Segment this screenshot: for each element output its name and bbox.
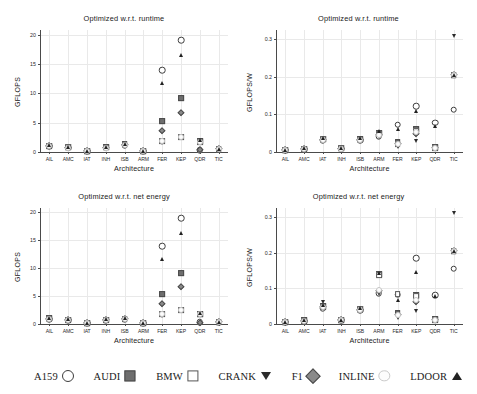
legend-item-marker bbox=[451, 370, 463, 382]
legend-item[interactable]: A159 bbox=[34, 370, 74, 382]
x-axis-tick-label: QDR bbox=[429, 328, 440, 334]
gridline-vertical bbox=[219, 30, 220, 152]
y-axis-tick-label: 20 bbox=[30, 209, 36, 215]
gridline-vertical bbox=[304, 30, 305, 152]
x-axis-tick-label: ISB bbox=[121, 156, 129, 162]
gridline-vertical bbox=[143, 208, 144, 324]
x-axis-tick-label: QDR bbox=[194, 328, 205, 334]
x-axis-tick-label: ARM bbox=[138, 328, 149, 334]
x-axis-tick-label: TIC bbox=[215, 156, 223, 162]
x-axis-tick-label: AIL bbox=[282, 156, 289, 162]
x-axis-tick-label: AIL bbox=[282, 328, 289, 334]
data-point bbox=[395, 141, 401, 147]
data-point bbox=[339, 146, 343, 150]
x-axis-tick-label: INH bbox=[102, 156, 110, 162]
data-point bbox=[432, 145, 438, 151]
panel-title: Optimized w.r.t. net energy bbox=[8, 192, 240, 201]
x-axis-tick-label: KEP bbox=[411, 156, 421, 162]
panel-title: Optimized w.r.t. net energy bbox=[240, 192, 477, 201]
x-axis-tick-label: IAT bbox=[319, 156, 326, 162]
legend-item[interactable]: INLINE bbox=[339, 370, 391, 382]
data-point bbox=[66, 145, 70, 149]
data-point bbox=[47, 316, 51, 320]
x-axis-tick-label: ISB bbox=[356, 328, 364, 334]
legend-item[interactable]: F1 bbox=[292, 370, 319, 382]
y-axis-tick-label: 0 bbox=[269, 149, 272, 155]
data-point bbox=[217, 147, 221, 151]
data-point bbox=[159, 311, 165, 317]
y-axis-line bbox=[276, 208, 277, 324]
gridline-vertical bbox=[435, 208, 436, 324]
gridline-vertical bbox=[454, 30, 455, 152]
x-axis-tick-label: INH bbox=[337, 328, 345, 334]
data-point bbox=[433, 124, 437, 128]
data-point bbox=[432, 317, 438, 323]
gridline-vertical bbox=[87, 208, 88, 324]
data-point bbox=[377, 129, 381, 133]
data-point bbox=[377, 271, 381, 275]
data-point bbox=[123, 316, 127, 320]
legend-item-marker bbox=[260, 370, 272, 382]
data-point bbox=[177, 283, 185, 291]
legend-item-marker bbox=[378, 370, 390, 382]
data-point bbox=[433, 294, 437, 298]
data-point bbox=[178, 307, 184, 313]
data-point bbox=[178, 95, 184, 101]
data-point bbox=[339, 318, 343, 322]
data-point bbox=[47, 143, 51, 147]
data-point bbox=[178, 215, 185, 222]
x-axis-tick-label: INH bbox=[102, 328, 110, 334]
y-axis-label: GFLOPS/W bbox=[246, 73, 253, 112]
gridline-vertical bbox=[143, 30, 144, 152]
y-axis-tick-label: 20 bbox=[30, 32, 36, 38]
legend-item[interactable]: AUDI bbox=[94, 370, 137, 382]
data-point bbox=[85, 149, 89, 153]
x-axis-tick-label: KEP bbox=[176, 328, 186, 334]
x-axis-label: Architecture bbox=[40, 336, 228, 345]
data-point bbox=[178, 37, 185, 44]
data-point bbox=[179, 53, 183, 57]
data-point bbox=[178, 134, 184, 140]
data-point bbox=[414, 109, 418, 113]
y-axis-tick-label: 10 bbox=[30, 265, 36, 271]
data-point bbox=[198, 311, 202, 315]
data-point bbox=[452, 34, 456, 38]
legend-item-label: A159 bbox=[34, 371, 58, 382]
gridline-vertical bbox=[435, 30, 436, 152]
gridline-vertical bbox=[360, 30, 361, 152]
gridline-vertical bbox=[49, 208, 50, 324]
data-point bbox=[450, 106, 457, 113]
x-axis-label: Architecture bbox=[40, 164, 228, 173]
data-point bbox=[217, 320, 221, 324]
data-point bbox=[302, 318, 306, 322]
data-point bbox=[159, 138, 165, 144]
legend-item[interactable]: CRANK bbox=[219, 370, 272, 382]
y-axis-tick-label: 10 bbox=[30, 90, 36, 96]
legend-item-label: AUDI bbox=[94, 371, 121, 382]
legend-item[interactable]: BMW bbox=[156, 370, 199, 382]
x-axis-tick-label: ISB bbox=[356, 156, 364, 162]
x-axis-tick-label: FER bbox=[157, 328, 167, 334]
x-axis-tick-label: KEP bbox=[176, 156, 186, 162]
y-axis-tick-label: 0.1 bbox=[265, 111, 272, 117]
x-axis-tick-label: TIC bbox=[450, 156, 458, 162]
y-axis-tick-label: 0.3 bbox=[265, 36, 272, 42]
x-axis-tick-label: FER bbox=[393, 156, 403, 162]
gridline-vertical bbox=[49, 30, 50, 152]
legend-item-label: BMW bbox=[156, 371, 183, 382]
legend-item[interactable]: LDOOR bbox=[410, 370, 463, 382]
data-point bbox=[283, 320, 287, 324]
gridline-vertical bbox=[200, 208, 201, 324]
data-point bbox=[396, 298, 400, 302]
legend-item-label: F1 bbox=[292, 371, 303, 382]
y-axis-tick-label: 0 bbox=[269, 321, 272, 327]
x-axis-tick-label: FER bbox=[157, 156, 167, 162]
data-point bbox=[452, 211, 456, 215]
data-point bbox=[159, 243, 166, 250]
y-axis-label: GFLOPS/W bbox=[246, 248, 253, 287]
gridline-vertical bbox=[87, 30, 88, 152]
data-point bbox=[85, 321, 89, 325]
gridline-vertical bbox=[416, 208, 417, 324]
gridline-vertical bbox=[398, 30, 399, 152]
legend-item-marker bbox=[307, 370, 319, 382]
